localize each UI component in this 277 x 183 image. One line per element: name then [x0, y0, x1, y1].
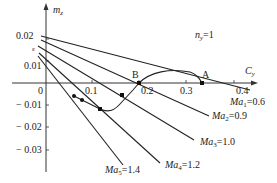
chart: mz Cy ny=1 0 0.1 0.2 0.3 0.4 0.02 0.01 −… [0, 0, 277, 183]
tick-y-neg0.03: − 0.03 [16, 145, 42, 155]
tick-x-0: 0 [38, 86, 43, 96]
label-ma1: Ma1=0.6 [230, 97, 265, 109]
tick-y-0.02: 0.02 [16, 31, 34, 41]
point-a-label: A [202, 70, 209, 80]
point-b-label: B [132, 70, 139, 80]
ny-annotation: ny=1 [195, 30, 214, 42]
x-axis-label: Cy [245, 66, 255, 78]
tick-y-neg0.02: − 0.02 [16, 122, 42, 132]
tick-y-0.01: 0.01 [24, 61, 42, 71]
label-ma3: Ma3=1.0 [200, 137, 235, 149]
label-ma4: Ma4=1.2 [165, 160, 200, 172]
label-ma2: Ma2=0.9 [212, 111, 247, 123]
tick-x-0.4: 0.4 [236, 86, 249, 96]
y-axis-arrow-icon [44, 3, 49, 10]
small-mark: ε [32, 46, 35, 53]
label-ma5: Ma5=1.4 [105, 165, 140, 177]
line-ma3 [38, 46, 194, 140]
tick-x-0.2: 0.2 [141, 86, 154, 96]
y-axis-label: mz [53, 5, 63, 17]
x-axis-arrow-icon [251, 81, 258, 86]
line-ma1 [41, 36, 250, 90]
tick-y-neg0.01: − 0.01 [16, 100, 42, 110]
tick-x-0.3: 0.3 [180, 86, 193, 96]
tick-x-0.1: 0.1 [85, 86, 98, 96]
